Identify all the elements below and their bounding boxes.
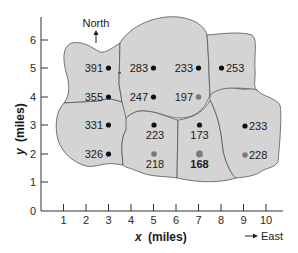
point-7-3: [197, 122, 202, 127]
point-3-4: [106, 94, 111, 99]
y-tick-4: 4: [30, 91, 36, 103]
point-5-3: [151, 122, 156, 127]
value-label: 326: [85, 148, 103, 160]
x-tick-labels: 1 2 3 4 5 6 7 8 9 10: [60, 214, 272, 226]
value-label: 223: [146, 129, 164, 141]
y-axis-title: y (miles): [13, 103, 27, 156]
point-9-2: [242, 152, 248, 158]
y-tick-5: 5: [30, 62, 36, 74]
x-tick-7: 7: [195, 214, 201, 226]
y-tick-3: 3: [30, 119, 36, 131]
point-8-5: [219, 65, 224, 70]
contour-region-map: 0 1 2 3 4 5 6 1 2 3 4 5 6 7 8 9 10 x (mi…: [0, 0, 298, 253]
value-label: 253: [226, 62, 244, 74]
value-label: 283: [130, 62, 148, 74]
y-axis-unit: (miles): [13, 103, 27, 142]
value-label: 247: [130, 91, 148, 103]
y-tick-0: 0: [30, 205, 36, 217]
value-label: 355: [85, 91, 103, 103]
point-7-4: [196, 94, 202, 100]
y-tick-1: 1: [30, 176, 36, 188]
north-arrowhead-icon: [94, 30, 99, 35]
value-label: 331: [85, 119, 103, 131]
value-label: 391: [85, 62, 103, 74]
y-tick-6: 6: [30, 34, 36, 46]
value-label: 173: [190, 129, 208, 141]
value-label: 228: [249, 149, 267, 161]
boundary-marker: [118, 72, 121, 74]
y-tick-2: 2: [30, 148, 36, 160]
value-label: 218: [146, 158, 164, 170]
value-label: 168: [190, 158, 208, 170]
point-3-5: [106, 65, 111, 70]
north-indicator: North: [83, 17, 110, 43]
point-9-3: [242, 123, 247, 128]
point-7-5: [196, 65, 201, 70]
value-label: 197: [175, 91, 193, 103]
x-axis-unit: (miles): [148, 230, 187, 244]
point-3-2: [106, 151, 111, 156]
x-tick-10: 10: [260, 214, 272, 226]
x-tick-8: 8: [218, 214, 224, 226]
x-tick-4: 4: [128, 214, 134, 226]
east-label: East: [261, 230, 283, 242]
x-tick-2: 2: [83, 214, 89, 226]
point-7-2: [196, 151, 203, 158]
x-tick-9: 9: [240, 214, 246, 226]
point-5-2: [151, 151, 157, 157]
x-tick-3: 3: [105, 214, 111, 226]
x-tick-5: 5: [150, 214, 156, 226]
x-tick-1: 1: [60, 214, 66, 226]
x-axis-title: x (miles): [134, 230, 187, 244]
x-tick-6: 6: [173, 214, 179, 226]
y-tick-labels: 0 1 2 3 4 5 6: [30, 34, 36, 217]
north-label: North: [83, 17, 110, 29]
y-axis-var: y: [13, 147, 27, 156]
point-3-3: [106, 122, 111, 127]
east-indicator: East: [245, 230, 283, 242]
value-label: 233: [249, 120, 267, 132]
value-label: 233: [175, 62, 193, 74]
point-5-5: [151, 65, 156, 70]
east-arrowhead-icon: [253, 234, 258, 239]
point-5-4: [151, 94, 156, 99]
x-axis-var: x: [134, 230, 143, 244]
